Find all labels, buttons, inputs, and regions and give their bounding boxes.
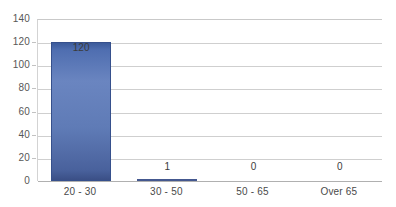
y-tick-mark — [32, 65, 36, 66]
y-tick-label: 120 — [13, 37, 30, 47]
y-tick-mark — [32, 42, 36, 43]
y-tick-mark — [32, 158, 36, 159]
bar[interactable] — [51, 42, 111, 181]
y-tick-mark — [32, 112, 36, 113]
x-category-label: 20 - 30 — [64, 186, 97, 198]
gridline-zero-baseline — [38, 181, 382, 182]
bar-value-label: 120 — [73, 43, 90, 53]
y-tick-label: 0 — [24, 176, 30, 186]
y-tick-label: 60 — [18, 107, 30, 117]
bar-chart: 140 120 100 80 60 40 20 0 120 — [0, 0, 396, 207]
y-axis: 140 120 100 80 60 40 20 0 — [0, 0, 34, 207]
bar-value-label: 0 — [251, 162, 257, 172]
y-tick-label: 20 — [18, 153, 30, 163]
bar-value-label: 1 — [165, 162, 171, 172]
x-axis: 20 - 30 30 - 50 50 - 65 Over 65 — [37, 186, 382, 202]
bar-value-label: 0 — [337, 162, 343, 172]
bars-layer: 120 1 0 0 — [38, 20, 382, 181]
y-tick-label: 80 — [18, 83, 30, 93]
y-tick-mark — [32, 88, 36, 89]
x-category-label: 30 - 50 — [150, 186, 183, 198]
bar-slot: 0 — [211, 20, 297, 181]
y-tick-label: 100 — [13, 60, 30, 70]
x-category-label: Over 65 — [320, 186, 357, 198]
bar-slot: 120 — [38, 20, 124, 181]
y-tick-label: 140 — [13, 14, 30, 24]
bar-slot: 1 — [124, 20, 210, 181]
bar[interactable] — [137, 179, 197, 182]
y-tick-mark — [32, 135, 36, 136]
y-tick-label: 40 — [18, 130, 30, 140]
plot-area: 120 1 0 0 — [37, 19, 382, 181]
bar-slot: 0 — [297, 20, 383, 181]
x-category-label: 50 - 65 — [236, 186, 269, 198]
